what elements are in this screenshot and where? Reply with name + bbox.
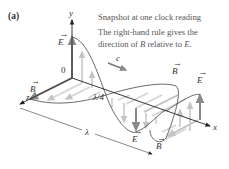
caption-line-1: Snapshot at one clock reading [98, 12, 202, 22]
b-field-vectors [30, 78, 198, 139]
e-field-vectors [72, 37, 200, 131]
wavelength-dimension-left [20, 108, 82, 130]
speed-label: c [116, 53, 120, 63]
quarter-wavelength-label: λ/4 [92, 92, 104, 102]
x-axis-label: x [212, 122, 217, 132]
propagation-arrow [108, 63, 126, 70]
caption-line-3: direction of B relative to E. [98, 39, 192, 49]
y-axis-label: y [68, 8, 73, 18]
svg-text:→: → [60, 29, 69, 39]
svg-text:→: → [134, 126, 143, 136]
panel-label: (a) [8, 11, 19, 22]
caption-line-2: The right-hand rule gives the [98, 27, 198, 37]
wavelength-label: λ [84, 127, 89, 137]
x-axis [72, 78, 210, 126]
origin-label: 0 [61, 65, 66, 75]
svg-text:→: → [31, 76, 40, 86]
svg-text:→: → [199, 67, 208, 77]
em-wave-diagram: (a) Snapshot at one clock reading The ri… [0, 0, 229, 169]
svg-text:→: → [157, 133, 166, 143]
svg-text:→: → [173, 58, 182, 68]
wavelength-dimension-right [95, 134, 152, 154]
